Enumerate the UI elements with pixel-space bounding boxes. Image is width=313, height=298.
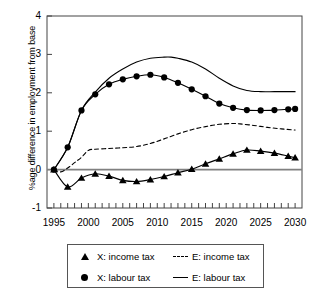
legend-label: E: income tax xyxy=(192,251,250,262)
data-point-marker xyxy=(244,107,250,113)
data-point-marker xyxy=(216,100,222,106)
legend-label: X: income tax xyxy=(97,251,155,262)
data-point-marker xyxy=(271,107,277,113)
data-point-marker xyxy=(106,81,112,87)
legend-item-e-labour-tax: E: labour tax xyxy=(171,266,265,288)
dashed-line-icon xyxy=(173,250,189,262)
legend-item-e-income-tax: E: income tax xyxy=(171,245,265,267)
series-line-x-income-tax xyxy=(54,150,295,187)
chart-legend: X: income tax E: income tax X: labour ta… xyxy=(67,244,264,288)
legend-item-x-labour-tax: X: labour tax xyxy=(68,266,171,288)
legend-row: X: income tax E: income tax xyxy=(68,245,265,267)
data-point-marker xyxy=(292,106,298,112)
legend-label: E: labour tax xyxy=(192,272,245,283)
data-point-marker xyxy=(120,76,126,82)
data-point-marker xyxy=(175,80,181,86)
legend-item-x-income-tax: X: income tax xyxy=(68,245,171,267)
data-point-marker xyxy=(78,174,86,180)
data-point-marker xyxy=(133,73,139,79)
circle-marker-icon xyxy=(78,271,94,283)
chart-figure: %age difference in employment from base … xyxy=(0,0,313,298)
data-point-marker xyxy=(161,74,167,80)
series-line-e-income-tax xyxy=(54,124,295,172)
triangle-marker-icon xyxy=(78,250,94,262)
data-point-marker xyxy=(147,72,153,78)
axes-frame xyxy=(47,16,302,208)
data-point-marker xyxy=(202,93,208,99)
legend-row: X: labour tax E: labour tax xyxy=(68,266,265,288)
series-line-x-labour-tax xyxy=(54,75,295,170)
data-point-marker xyxy=(202,160,210,166)
legend-label: X: labour tax xyxy=(97,272,150,283)
data-point-marker xyxy=(285,106,291,112)
data-point-marker xyxy=(258,107,264,113)
data-point-marker xyxy=(189,86,195,92)
solid-line-icon xyxy=(173,271,189,283)
data-point-marker xyxy=(230,105,236,111)
